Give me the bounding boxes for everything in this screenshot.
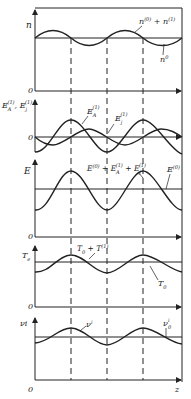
leader-n-total [134,26,142,33]
label-n0: n0 [160,54,169,64]
panel-temperature: Te 0 T0 + T(1) T0 [22,243,182,311]
label-nu0-i: ν0i [163,317,172,330]
label-T0: T0 [158,279,167,290]
origin-label: 0 [28,385,33,394]
x-axis-label: z [174,385,180,394]
label-E0: E(0) [166,164,180,174]
y-axis-label: n [26,20,32,30]
label-n-total: n(0) + n(1) [139,16,175,26]
wave-perturbation-diagram: n 0 n(0) + n(1) n0 EA(1), Ej(1) 0 EA(1) … [0,0,191,399]
panel-density: n 0 n(0) + n(1) n0 [26,10,182,95]
zero-label: 0 [28,86,33,95]
zero-label: 0 [28,232,33,241]
leader-T-sum [89,253,95,259]
y-axis-label: EA(1), Ej(1) [1,99,32,113]
leader-T0 [150,266,158,280]
label-EA: EA(1) [86,104,100,118]
panel-total-field: E 0 E(0) + EA(1) + Ej(1) E(0) [23,160,182,241]
label-Ej: Ej(1) [114,111,128,126]
y-axis-label: Te [22,251,30,262]
leader-Ej [108,124,114,133]
y-axis-label: E [23,166,31,176]
leader-EA [82,116,88,124]
label-T-sum: T0 + T(1) [77,243,108,255]
zero-label: 0 [28,133,33,142]
panel-ionization: νi 0 z νi ν0i [20,317,182,394]
label-nu-i: νi [86,319,93,329]
y-axis-label: νi [20,319,28,328]
zero-label: 0 [28,302,33,311]
curve-E-total [35,171,182,210]
leader-E0 [166,174,170,189]
phase-guide-lines [71,38,143,380]
curve-T-total [35,255,182,273]
panel-fields: EA(1), Ej(1) 0 EA(1) Ej(1) [1,99,182,154]
